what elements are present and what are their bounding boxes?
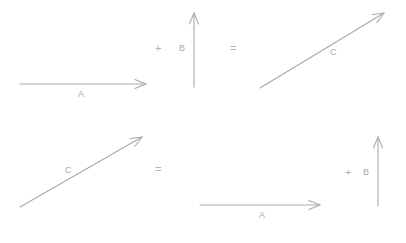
- bottom-equals-operator: =: [155, 164, 161, 175]
- top-vector-c-arrow: [260, 13, 384, 88]
- bottom-plus-operator: +: [345, 167, 351, 178]
- bottom-vector-b-arrow: [373, 137, 382, 206]
- bottom-vector-c-arrow: [20, 137, 142, 207]
- top-vector-a-arrow: [20, 79, 146, 88]
- top-vector-a-label: A: [78, 90, 84, 99]
- bottom-vector-c-label: C: [65, 166, 72, 175]
- bottom-vector-a-label: A: [259, 211, 265, 220]
- top-vector-b-arrow: [189, 13, 198, 87]
- bottom-vector-b-label: B: [363, 168, 369, 177]
- top-equals-operator: =: [230, 43, 236, 54]
- top-vector-c-label: C: [330, 48, 337, 57]
- vector-diagram-canvas: A + B = C C = A + B: [0, 0, 406, 243]
- top-vector-b-label: B: [179, 44, 185, 53]
- bottom-vector-a-arrow: [200, 200, 320, 209]
- vector-arrows-layer: [0, 0, 406, 243]
- top-plus-operator: +: [155, 43, 161, 54]
